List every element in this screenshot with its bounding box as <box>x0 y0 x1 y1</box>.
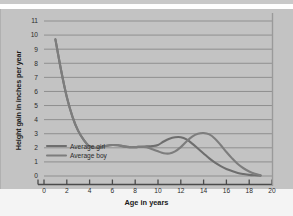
y-tick-label: 4 <box>34 116 38 123</box>
y-tick-labels: 01234567891011 <box>31 17 39 179</box>
chart-svg: 01234567891011 02468101214161820 Average… <box>0 0 293 216</box>
chart-figure: Height gain in inches per year Age in ye… <box>0 0 293 216</box>
x-tick-label: 8 <box>133 187 137 194</box>
x-tick-label: 16 <box>223 187 231 194</box>
y-tick-label: 9 <box>34 46 38 53</box>
y-tick-label: 11 <box>31 17 38 24</box>
legend-label: Average girl <box>70 143 106 151</box>
y-tick-label: 5 <box>34 102 38 109</box>
y-tick-label: 2 <box>34 144 38 151</box>
x-tick-label: 18 <box>246 187 254 194</box>
x-tick-label: 2 <box>65 187 69 194</box>
x-tick-label: 4 <box>88 187 92 194</box>
x-tick-labels: 02468101214161820 <box>42 187 276 194</box>
y-tick-label: 1 <box>34 158 38 165</box>
x-tick-label: 10 <box>154 187 162 194</box>
y-tick-label: 3 <box>34 130 38 137</box>
x-axis <box>38 180 272 185</box>
y-tick-label: 10 <box>31 31 39 38</box>
x-tick-label: 12 <box>177 187 185 194</box>
y-tick-label: 0 <box>34 172 38 179</box>
y-tick-label: 6 <box>34 88 38 95</box>
chart-legend: Average girlAverage boy <box>47 143 108 161</box>
y-tick-label: 8 <box>34 60 38 67</box>
legend-label: Average boy <box>70 152 108 160</box>
x-tick-label: 14 <box>200 187 208 194</box>
x-tick-label: 6 <box>111 187 115 194</box>
x-tick-label: 0 <box>42 187 46 194</box>
x-tick-label: 20 <box>268 187 276 194</box>
y-tick-label: 7 <box>34 74 38 81</box>
